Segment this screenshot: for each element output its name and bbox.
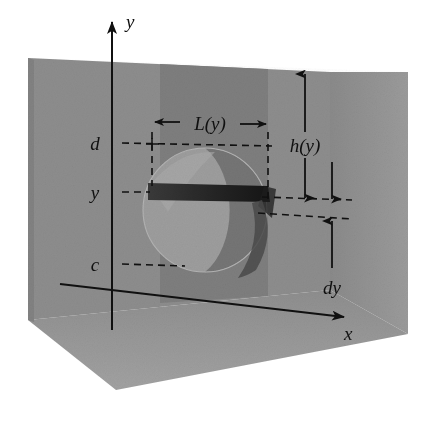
h-of-y-label: h(y) <box>290 135 321 157</box>
y-axis-label: y <box>124 11 135 32</box>
tank-plate-diagram: L(y) h(y) dy y x d y c <box>0 0 444 444</box>
figure-canvas: L(y) h(y) dy y x d y c <box>0 0 444 444</box>
level-label-y: y <box>89 182 100 203</box>
bound-label-c: c <box>91 254 100 275</box>
tank-side-wall-right <box>330 72 408 334</box>
circular-plate <box>143 148 267 272</box>
dy-label: dy <box>323 277 342 298</box>
x-axis-label: x <box>343 323 353 344</box>
bound-label-d: d <box>90 133 100 154</box>
strip-slab <box>148 183 270 202</box>
tank-left-facet <box>28 58 34 322</box>
L-of-y-label: L(y) <box>193 113 226 135</box>
